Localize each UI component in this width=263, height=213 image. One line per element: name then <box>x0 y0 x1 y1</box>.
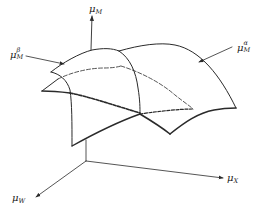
label-beta-subscript: M <box>17 54 24 61</box>
membership-surface-diagram <box>0 0 263 213</box>
pointer-beta <box>26 56 64 64</box>
label-mu-m-subscript: M <box>96 8 103 16</box>
axis-mu-m <box>91 16 92 50</box>
label-mu-x-subscript: X <box>234 177 239 185</box>
axis-mu-w <box>36 161 86 197</box>
label-mu-m: μM <box>89 4 102 16</box>
label-mu-w: μW <box>12 193 25 205</box>
label-alpha-subscript: M <box>244 47 251 54</box>
label-mu-w-subscript: W <box>19 197 26 205</box>
surface-beta <box>42 49 140 146</box>
surface-alpha <box>119 44 236 134</box>
pointer-alpha <box>199 47 232 62</box>
label-mu-m-alpha: μαM <box>237 43 251 53</box>
axis-mu-x <box>86 161 223 178</box>
label-mu-x: μX <box>227 173 238 185</box>
label-mu-m-beta: μβM <box>10 50 24 60</box>
